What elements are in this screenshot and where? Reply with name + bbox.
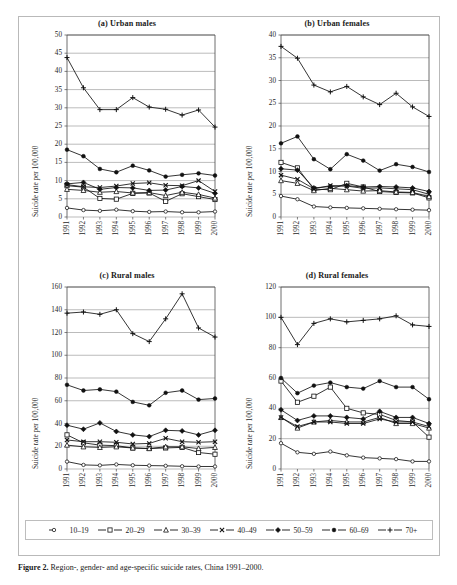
series-70+	[65, 291, 218, 344]
series-line	[67, 189, 215, 198]
data-point	[131, 464, 134, 467]
data-point	[147, 403, 151, 407]
data-point	[295, 418, 300, 423]
data-point	[213, 191, 218, 196]
data-point	[378, 457, 381, 460]
data-point	[180, 389, 184, 393]
legend-marker-glyph	[107, 528, 111, 532]
series-line	[67, 435, 215, 454]
chart-panel-d: (d) Rural femalesSuicide rate per 100,00…	[237, 271, 437, 517]
panel-grid: (a) Urban malesSuicide rate per 100,0000…	[19, 17, 439, 517]
series-70+	[279, 313, 432, 347]
data-point	[279, 160, 283, 164]
data-point	[344, 415, 349, 420]
legend-marker-cross-x-icon	[209, 524, 235, 536]
data-point	[196, 185, 201, 190]
data-point	[427, 324, 432, 329]
data-point	[328, 381, 332, 385]
data-point	[361, 387, 365, 391]
legend-marker-glyph	[332, 528, 336, 532]
data-point	[361, 411, 365, 415]
series-70+	[65, 55, 218, 130]
data-point	[147, 105, 152, 110]
series-line	[281, 378, 429, 399]
data-point	[196, 450, 200, 454]
series-10_19	[279, 194, 430, 212]
data-point	[328, 385, 332, 389]
series-line	[67, 58, 215, 128]
data-point	[279, 194, 282, 197]
data-point	[328, 413, 333, 418]
data-point	[312, 394, 316, 398]
legend-marker-filled-diamond-icon	[265, 524, 291, 536]
data-point	[213, 397, 217, 401]
series-line	[281, 381, 429, 437]
data-point	[361, 94, 366, 99]
data-point	[345, 152, 349, 156]
legend-label: 30–39	[182, 526, 201, 535]
legend-item-a50_59: 50–59	[265, 524, 313, 536]
data-point	[131, 164, 135, 168]
legend-marker-glyph	[387, 528, 392, 533]
data-point	[164, 210, 167, 213]
data-point	[213, 465, 216, 468]
data-point	[378, 207, 381, 210]
data-point	[378, 169, 382, 173]
data-point	[394, 457, 397, 460]
legend-item-a60_69: 60–69	[321, 524, 369, 536]
series-10_19	[65, 206, 216, 214]
data-point	[345, 385, 349, 389]
data-point	[410, 415, 415, 420]
data-point	[65, 383, 69, 387]
data-point	[394, 385, 398, 389]
data-point	[98, 464, 101, 467]
data-point	[345, 454, 348, 457]
series-line	[67, 294, 215, 342]
series-20_29	[65, 433, 217, 457]
data-point	[65, 433, 69, 437]
series-60_69	[65, 148, 217, 179]
series-60_69	[279, 376, 431, 401]
data-point	[296, 198, 299, 201]
data-point	[312, 452, 315, 455]
data-point	[196, 325, 201, 330]
data-point	[362, 207, 365, 210]
series-10_19	[279, 442, 430, 464]
data-point	[361, 159, 365, 163]
legend-marker-glyph	[219, 528, 223, 532]
data-point	[130, 432, 135, 437]
chart-panel-b: (b) Urban femalesSuicide rate per 100,00…	[237, 19, 437, 267]
data-point	[213, 174, 217, 178]
legend-marker-glyph	[275, 528, 280, 533]
data-point	[362, 456, 365, 459]
data-point	[131, 400, 135, 404]
data-point	[411, 460, 414, 463]
data-point	[82, 389, 86, 393]
data-point	[82, 154, 86, 158]
data-point	[180, 113, 185, 118]
legend-item-a10_19: 10–19	[41, 524, 89, 536]
data-point	[328, 89, 333, 94]
data-point	[196, 432, 201, 437]
data-point	[279, 141, 283, 145]
caption-text: Region-, gender- and age-specific suicid…	[51, 563, 264, 572]
data-point	[377, 102, 382, 107]
data-point	[329, 206, 332, 209]
data-point	[82, 463, 85, 466]
data-point	[130, 185, 135, 190]
legend-label: 10–19	[70, 526, 89, 535]
data-point	[427, 435, 431, 439]
legend-item-a40_49: 40–49	[209, 524, 257, 536]
data-point	[295, 400, 299, 404]
data-point	[97, 312, 102, 317]
data-point	[296, 451, 299, 454]
data-point	[394, 162, 398, 166]
data-point	[394, 208, 397, 211]
plot-area-b	[237, 19, 437, 267]
data-point	[213, 452, 217, 456]
series-line	[281, 196, 429, 210]
series-line	[67, 423, 215, 437]
data-point	[114, 429, 119, 434]
series-70+	[279, 44, 432, 119]
series-60_69	[65, 383, 217, 407]
